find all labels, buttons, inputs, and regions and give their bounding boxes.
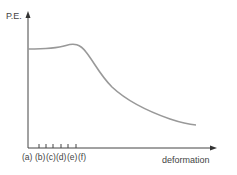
tick-label-e: (e) [67,152,78,162]
x-axis-arrow-icon [210,146,217,151]
energy-deformation-diagram: P.E. deformation (a) (b) (c) (d) (e) (f) [0,0,237,175]
tick-label-a: (a) [22,152,33,162]
x-axis-label: deformation [162,155,210,165]
tick-label-d: (d) [56,152,67,162]
x-ticks [39,144,76,148]
tick-label-b: (b) [35,152,46,162]
y-axis-label: P.E. [6,11,22,21]
tick-label-f: (f) [78,152,86,162]
tick-label-c: (c) [46,152,56,162]
pe-curve [28,44,196,125]
y-axis-arrow-icon [26,11,31,18]
